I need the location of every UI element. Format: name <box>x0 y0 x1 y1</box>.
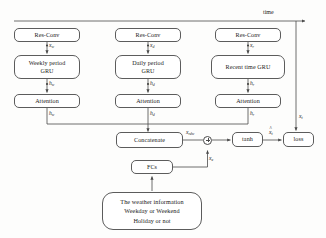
edge-label-x-t: xt <box>299 114 303 120</box>
node-weekly-period-gru[interactable]: Weekly period GRU <box>14 55 80 79</box>
edge-label-x-e: xe <box>209 156 213 162</box>
edge-fcs-to-sum <box>173 151 208 168</box>
node-attention-daily[interactable]: Attention <box>115 94 181 108</box>
node-fcs[interactable]: FCs <box>131 160 173 174</box>
sum-operator-icon <box>203 136 212 145</box>
edge-label-h-w-attention: hw <box>49 111 54 117</box>
node-label: Attention <box>136 97 160 105</box>
node-res-conv-weekly[interactable]: Res-Conv <box>14 28 80 42</box>
edge-gru-w-to-attention-w <box>46 79 48 93</box>
edge-label-h-d-gru: hd <box>150 81 155 87</box>
node-label: tanh <box>242 135 253 143</box>
edge-label-h-d-attention: hd <box>150 111 155 117</box>
edge-label-x-w: xw <box>49 43 54 49</box>
edge-resconv-w-to-gru-w <box>46 42 48 54</box>
edge-gru-r-to-attention-r <box>247 79 249 93</box>
node-concatenate[interactable]: Concatenate <box>116 132 183 148</box>
edge-gru-d-to-attention-d <box>147 79 149 93</box>
node-res-conv-daily[interactable]: Res-Conv <box>115 28 181 42</box>
weather-line-2: Weekday or Weekend <box>124 206 179 216</box>
edge-label-x-r: xr <box>250 43 254 49</box>
edge-label-h-w-gru: hw <box>49 81 54 87</box>
time-axis-label: time <box>263 9 274 15</box>
node-label: Attention <box>35 97 59 105</box>
node-attention-weekly[interactable]: Attention <box>14 94 80 108</box>
edge-resconv-d-to-gru-d <box>147 42 149 54</box>
node-label-line1: Recent time GRU <box>226 63 271 71</box>
node-label: loss <box>294 135 304 143</box>
node-attention-recent[interactable]: Attention <box>215 94 281 108</box>
diagram-canvas: Res-Conv Weekly period GRU Attention Res… <box>0 0 326 238</box>
node-label: Attention <box>236 97 260 105</box>
node-label: Res-Conv <box>235 31 260 39</box>
edge-label-x-hat-t: ^ xt <box>269 130 273 136</box>
node-daily-period-gru[interactable]: Daily period GRU <box>115 55 181 79</box>
node-label-line1: Weekly period <box>29 59 66 67</box>
edge-label-h-r-attention: hr <box>250 111 254 117</box>
edge-resconv-r-to-gru-r <box>247 42 249 54</box>
node-label-line1: Daily period <box>132 59 164 67</box>
node-label: Res-Conv <box>34 31 59 39</box>
node-label-line2: GRU <box>141 67 154 75</box>
node-label: Res-Conv <box>135 31 160 39</box>
node-weather-information[interactable]: The weather information Weekday or Weeke… <box>102 192 202 230</box>
weather-line-1: The weather information <box>120 197 183 207</box>
node-tanh[interactable]: tanh <box>232 132 263 147</box>
weather-line-3: Holiday or not <box>133 216 170 226</box>
node-recent-time-gru[interactable]: Recent time GRU <box>211 55 285 79</box>
edge-label-x-rdw: xrdw <box>186 130 194 136</box>
node-res-conv-recent[interactable]: Res-Conv <box>215 28 281 42</box>
node-label: Concatenate <box>134 136 165 144</box>
edge-label-h-r-gru: hr <box>250 81 254 87</box>
edge-attention-r-to-bus <box>172 108 248 124</box>
node-label-line2: GRU <box>40 67 53 75</box>
node-loss[interactable]: loss <box>283 132 314 147</box>
hat-accent: ^ <box>269 126 271 131</box>
edge-label-x-d: xd <box>150 43 154 49</box>
node-label: FCs <box>147 163 157 171</box>
